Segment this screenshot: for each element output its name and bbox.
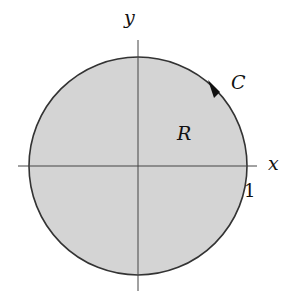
- x-axis-label: x: [268, 152, 279, 174]
- y-axis-label: y: [123, 6, 135, 28]
- curve-c-label: C: [231, 71, 246, 93]
- region-r-label: R: [176, 122, 191, 144]
- radius-tick-label: 1: [244, 180, 255, 201]
- diagram-canvas: y x C R 1: [0, 0, 289, 293]
